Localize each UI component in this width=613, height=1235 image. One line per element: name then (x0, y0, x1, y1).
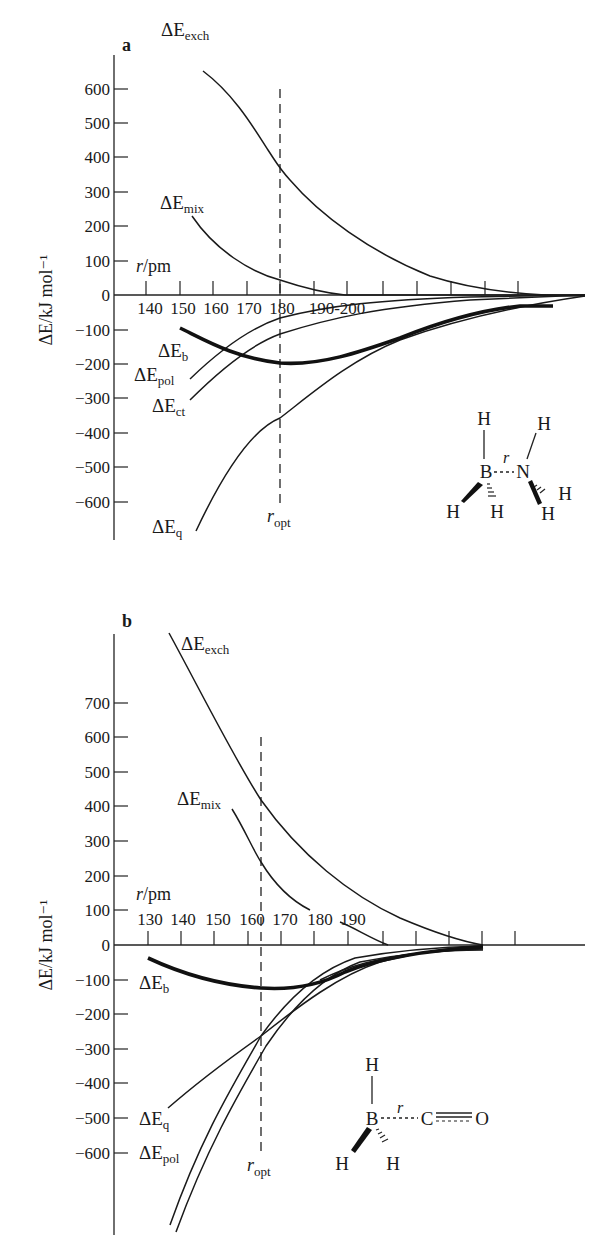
y-tick: −500 (75, 1109, 110, 1128)
figure: a 600 500 400 300 200 100 0 (0, 0, 613, 1235)
x-unit-label: r/pm (136, 884, 171, 904)
x-tick: 140 (170, 910, 196, 929)
curve-exch (203, 71, 585, 296)
x-tick: 180 (307, 910, 333, 929)
y-tick: 0 (102, 286, 111, 305)
x-tick: 190 (340, 910, 366, 929)
r-opt-label: ropt (247, 1155, 271, 1179)
series-labels: ΔEexch ΔEmix ΔEb ΔEpol ΔEct ΔEq (134, 19, 210, 540)
curve-b (148, 947, 483, 988)
atom-n: N (516, 461, 530, 482)
y-tick: 700 (85, 694, 111, 713)
x-ticks (148, 931, 515, 945)
molecule-bh3-co: H B C O H H r (335, 1054, 489, 1174)
y-tick: −300 (75, 1040, 110, 1059)
curve-mix (192, 216, 585, 295)
x-tick: 150 (205, 910, 231, 929)
panel-b-label: b (122, 611, 132, 631)
atom-h: H (335, 1153, 349, 1174)
y-axis-title: ΔE/kJ mol⁻¹ (36, 900, 56, 991)
atom-h: H (365, 1054, 379, 1075)
curve-mix (232, 809, 310, 910)
y-tick: 0 (102, 936, 111, 955)
bond-r-label: r (397, 1099, 404, 1116)
label-pol: ΔEpol (139, 1142, 180, 1166)
y-tick: 100 (85, 252, 111, 271)
atom-b: B (366, 1108, 379, 1129)
x-tick-labels: 130 140 150 160 170 180 190 (137, 910, 366, 929)
bond-r-label: r (503, 449, 510, 466)
y-tick: 100 (85, 901, 111, 920)
r-opt-label: ropt (267, 506, 291, 530)
atom-h: H (477, 408, 491, 429)
x-tick: 170 (272, 910, 298, 929)
y-tick: 200 (85, 217, 111, 236)
atom-h: H (490, 501, 504, 522)
atom-o: O (475, 1108, 489, 1129)
y-tick-labels: 700 600 500 400 300 200 100 0 −100 −200 … (75, 694, 110, 1163)
y-tick: −400 (75, 1074, 110, 1093)
x-tick: 130 (137, 910, 163, 929)
curve-q (196, 296, 585, 531)
atom-b: B (480, 461, 493, 482)
y-tick: 400 (85, 148, 111, 167)
y-tick: −300 (75, 389, 110, 408)
label-b: ΔEb (139, 972, 169, 996)
panel-a-label: a (122, 35, 131, 55)
y-tick: −200 (75, 355, 110, 374)
y-tick: −100 (75, 321, 110, 340)
atom-h: H (537, 413, 551, 434)
label-ct: ΔEct (152, 395, 186, 419)
label-q: ΔEq (139, 1108, 170, 1132)
x-tick: 140 (137, 299, 163, 318)
label-exch: ΔEexch (161, 19, 210, 43)
y-tick: −100 (75, 971, 110, 990)
y-tick: −200 (75, 1005, 110, 1024)
curve-exch (169, 633, 483, 945)
x-tick: 190-200 (309, 299, 366, 318)
y-tick-labels: 600 500 400 300 200 100 0 −100 −200 −300… (75, 80, 110, 512)
label-mix: ΔEmix (160, 192, 205, 216)
y-tick: 500 (85, 763, 111, 782)
y-tick: −500 (75, 458, 110, 477)
panel-b: b 700 600 500 400 300 200 100 0 (36, 611, 585, 1235)
y-tick: 400 (85, 797, 111, 816)
atom-h: H (558, 483, 572, 504)
molecule-bh3-nh3: H H B N H H H H r (446, 408, 572, 524)
x-tick-labels: 140 150 160 170 180 190-200 (137, 299, 365, 318)
x-tick: 170 (236, 299, 262, 318)
x-tick: 160 (203, 299, 229, 318)
atom-h: H (386, 1153, 400, 1174)
label-b: ΔEb (158, 340, 188, 364)
x-tick: 150 (170, 299, 196, 318)
y-tick: 300 (85, 183, 111, 202)
label-q: ΔEq (152, 516, 183, 540)
label-pol: ΔEpol (134, 364, 175, 388)
label-exch: ΔEexch (181, 633, 230, 657)
y-tick: 600 (85, 80, 111, 99)
y-tick: −600 (75, 1144, 110, 1163)
y-ticks (114, 703, 128, 1153)
panel-a: a 600 500 400 300 200 100 0 (36, 19, 585, 540)
y-tick: 200 (85, 867, 111, 886)
atom-c: C (421, 1108, 434, 1129)
atom-h: H (446, 501, 460, 522)
curve-ct (176, 949, 483, 1232)
y-tick: 500 (85, 114, 111, 133)
label-mix: ΔEmix (177, 788, 222, 812)
y-axis-title: ΔE/kJ mol⁻¹ (36, 255, 56, 346)
x-unit-label: r/pm (136, 256, 171, 276)
y-tick: −400 (75, 424, 110, 443)
y-tick: 300 (85, 832, 111, 851)
curve-q (168, 946, 483, 1108)
atom-h: H (541, 503, 555, 524)
curves (168, 633, 483, 1232)
y-tick: 600 (85, 728, 111, 747)
y-tick: −600 (75, 493, 110, 512)
